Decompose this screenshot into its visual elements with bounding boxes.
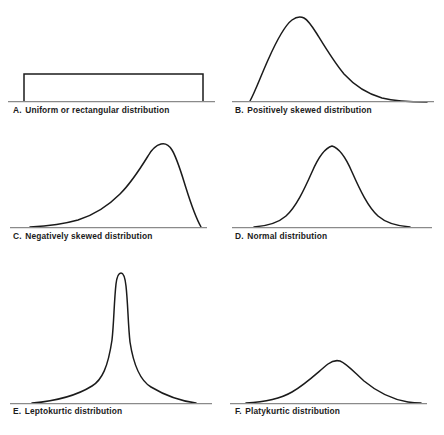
panel-platykurtic-distribution (222, 252, 444, 412)
caption-letter-a: A. (13, 105, 22, 115)
plot-area-leptokurtic (0, 252, 222, 412)
caption-normal-distribution: D.Normal distribution (235, 231, 327, 241)
curve-uniform-icon (0, 0, 222, 110)
caption-text-a: Uniform or rectangular distribution (25, 105, 169, 115)
panel-normal-distribution (222, 126, 444, 236)
panel-negatively-skewed-distribution (0, 126, 222, 236)
plot-area-normal (222, 126, 444, 236)
curve-path-platykurtic (246, 361, 421, 403)
curve-path-leptokurtic (32, 273, 196, 403)
curve-normal-icon (222, 126, 444, 236)
curve-platykurtic-icon (222, 252, 444, 412)
curve-path-normal (254, 146, 410, 227)
panel-positively-skewed-distribution (222, 0, 444, 110)
caption-text-f: Platykurtic distribution (245, 406, 340, 416)
plot-area-uniform (0, 0, 222, 110)
caption-leptokurtic-distribution: E.Leptokurtic distribution (13, 406, 122, 416)
caption-text-b: Positively skewed distribution (247, 105, 372, 115)
curve-positively-skewed-icon (222, 0, 444, 110)
caption-text-d: Normal distribution (247, 231, 327, 241)
plot-area-platykurtic (222, 252, 444, 412)
caption-uniform-distribution: A.Uniform or rectangular distribution (13, 105, 170, 115)
caption-letter-e: E. (13, 406, 21, 416)
curve-path-positively-skewed (250, 17, 427, 102)
caption-letter-c: C. (13, 231, 22, 241)
panel-uniform-distribution (0, 0, 222, 110)
caption-text-e: Leptokurtic distribution (25, 406, 123, 416)
plot-area-negatively-skewed (0, 126, 222, 236)
caption-platykurtic-distribution: F.Platykurtic distribution (235, 406, 340, 416)
curve-negatively-skewed-icon (0, 126, 222, 236)
caption-text-c: Negatively skewed distribution (25, 231, 152, 241)
curve-leptokurtic-icon (0, 252, 222, 412)
caption-letter-f: F. (235, 406, 242, 416)
curve-path-negatively-skewed (30, 144, 201, 227)
curve-path-uniform (24, 74, 203, 101)
caption-negatively-skewed-distribution: C.Negatively skewed distribution (13, 231, 153, 241)
plot-area-positively-skewed (222, 0, 444, 110)
caption-letter-d: D. (235, 231, 244, 241)
caption-positively-skewed-distribution: B.Positively skewed distribution (235, 105, 372, 115)
distribution-shapes-figure: A.Uniform or rectangular distribution B.… (0, 0, 444, 435)
panel-leptokurtic-distribution (0, 252, 222, 412)
caption-letter-b: B. (235, 105, 244, 115)
